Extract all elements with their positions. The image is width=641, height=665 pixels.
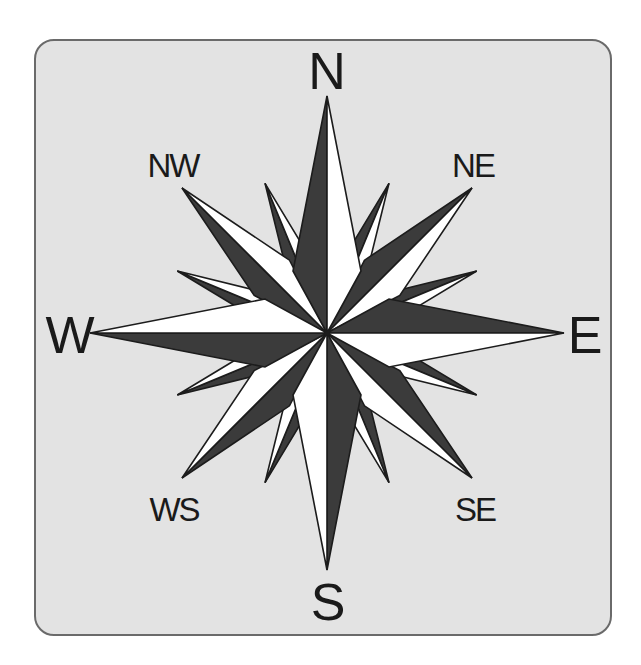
label-southeast: SE xyxy=(455,493,495,526)
label-northwest: NW xyxy=(148,149,199,182)
label-north: N xyxy=(308,45,346,97)
center-pivot xyxy=(324,330,330,336)
label-southwest: WS xyxy=(149,493,198,526)
label-west: W xyxy=(45,309,94,361)
label-east: E xyxy=(568,309,603,361)
compass-rose-figure: N S W E NW NE WS SE xyxy=(0,0,641,665)
label-northeast: NE xyxy=(452,149,494,182)
label-south: S xyxy=(311,576,346,628)
